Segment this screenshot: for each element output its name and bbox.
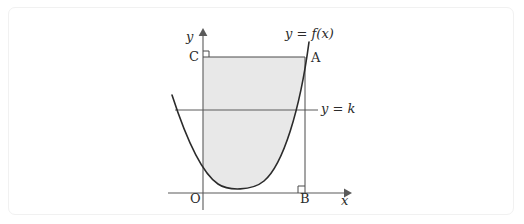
- shaded-region-group: [172, 42, 309, 200]
- origin-label: O: [190, 192, 201, 205]
- point-a-label: A: [311, 51, 320, 64]
- right-angle-marker-c: [203, 51, 209, 57]
- y-axis-arrow-icon: [199, 28, 208, 36]
- curve-equation-label: y = f(x): [285, 27, 334, 40]
- point-b-label: B: [300, 192, 310, 205]
- x-axis-label: x: [341, 194, 348, 207]
- point-c-label: C: [189, 50, 199, 63]
- level-line-label: y = k: [321, 102, 355, 115]
- graph-canvas: [0, 0, 524, 224]
- y-axis-label: y: [186, 30, 193, 43]
